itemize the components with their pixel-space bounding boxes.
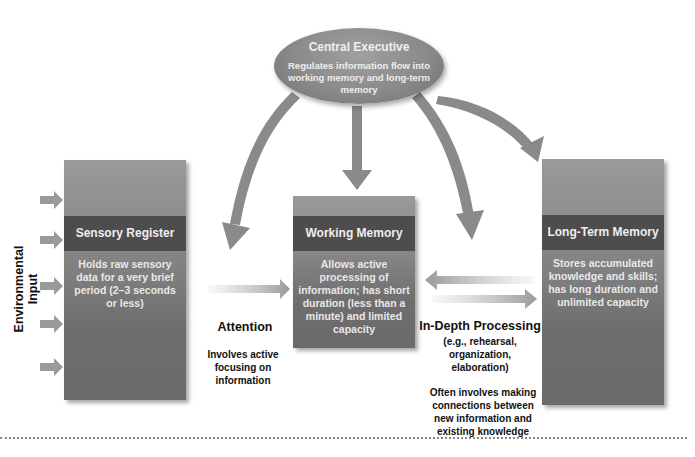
ce-to-sensory-arrow (230, 92, 300, 225)
long-term-memory-description: Stores accumulated knowledge and skills;… (546, 257, 660, 309)
sensory-register-title: Sensory Register (64, 216, 186, 251)
sensory-register-description: Holds raw sensory data for a very brief … (68, 258, 182, 310)
encoding-arrow (432, 289, 537, 309)
central-executive-description: Regulates information flow into working … (282, 60, 436, 96)
working-memory-description: Allows active processing of information;… (297, 258, 411, 336)
attention-arrow (208, 279, 290, 299)
in-depth-processing-examples: (e.g., rehearsal, organization, elaborat… (440, 335, 520, 374)
in-depth-processing-description: Often involves making connections betwee… (424, 386, 542, 438)
sensory-register-box: Sensory Register Holds raw sensory data … (64, 160, 186, 400)
working-memory-box: Working Memory Allows active processing … (293, 196, 415, 348)
environmental-input-label: Environmental Input (12, 229, 40, 349)
long-term-memory-box: Long-Term Memory Stores accumulated know… (542, 159, 664, 405)
long-term-memory-title: Long-Term Memory (542, 215, 664, 250)
attention-title: Attention (200, 320, 290, 334)
ce-to-wm-curved-arrow (412, 92, 474, 218)
central-executive: Central Executive Regulates information … (274, 28, 444, 104)
ce-to-wm-arrow (342, 106, 372, 190)
attention-description: Involves active focusing on information (200, 348, 286, 387)
environmental-input-arrows (40, 191, 63, 376)
central-executive-title: Central Executive (274, 40, 444, 54)
working-memory-title: Working Memory (293, 216, 415, 251)
in-depth-processing-title: In-Depth Processing (418, 319, 542, 333)
retrieval-arrow (425, 270, 535, 290)
divider (0, 437, 687, 439)
